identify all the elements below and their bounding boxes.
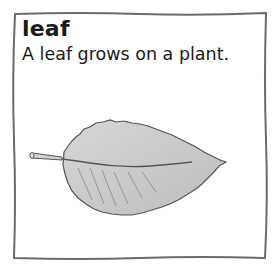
leaf-icon bbox=[0, 0, 273, 264]
vocabulary-card: leaf A leaf grows on a plant. bbox=[0, 0, 273, 264]
